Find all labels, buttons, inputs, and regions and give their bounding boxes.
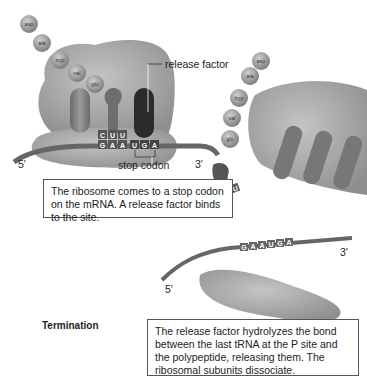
- svg-text:val: val: [73, 70, 80, 76]
- label-3-prime-1: 3′: [195, 158, 203, 170]
- section-title: Termination: [42, 320, 98, 331]
- svg-text:val: val: [228, 115, 235, 121]
- svg-text:asp: asp: [257, 58, 266, 64]
- svg-text:U: U: [268, 241, 273, 248]
- label-release-factor: release factor: [165, 58, 229, 70]
- caption-step-1: The ribosome comes to a stop codon on th…: [43, 179, 233, 218]
- trna-e-site: [70, 88, 90, 133]
- svg-text:tryp: tryp: [55, 57, 64, 63]
- label-stop-codon: stop codon: [118, 159, 169, 171]
- svg-text:A: A: [259, 242, 264, 249]
- svg-text:G: G: [142, 142, 148, 149]
- svg-text:A: A: [110, 142, 115, 149]
- svg-text:ala: ala: [246, 73, 254, 79]
- svg-text:U: U: [132, 142, 137, 149]
- svg-text:A: A: [286, 239, 291, 246]
- small-subunit-dissociated: [199, 270, 340, 322]
- svg-text:asp: asp: [25, 21, 34, 27]
- svg-text:U: U: [120, 132, 125, 139]
- svg-text:tryp: tryp: [234, 95, 243, 101]
- svg-text:C: C: [100, 132, 105, 139]
- svg-text:ala: ala: [38, 40, 46, 46]
- svg-text:U: U: [110, 132, 115, 139]
- svg-text:glu: glu: [226, 136, 233, 142]
- label-3-prime-2: 3′: [340, 246, 348, 258]
- svg-text:glu: glu: [91, 81, 98, 87]
- codon-nt: G: [100, 142, 106, 149]
- svg-text:A: A: [152, 142, 157, 149]
- label-5-prime-2: 5′: [165, 283, 173, 295]
- svg-text:A: A: [120, 142, 125, 149]
- release-factor-shape: [134, 88, 154, 138]
- svg-text:G: G: [277, 240, 283, 247]
- caption-step-2: The release factor hydrolyzes the bond b…: [147, 319, 359, 376]
- anticodon: C U U: [98, 130, 127, 139]
- svg-text:G: G: [241, 244, 247, 251]
- large-subunit-dissociated: [248, 81, 367, 195]
- svg-text:A: A: [250, 243, 255, 250]
- label-5-prime-1: 5′: [18, 158, 26, 170]
